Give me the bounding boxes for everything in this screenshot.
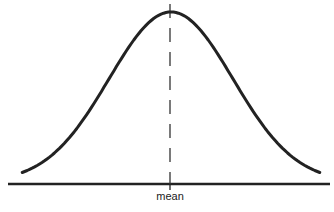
normal-curve — [22, 12, 320, 173]
mean-label: mean — [156, 190, 184, 202]
bell-curve-diagram: mean — [0, 0, 334, 212]
